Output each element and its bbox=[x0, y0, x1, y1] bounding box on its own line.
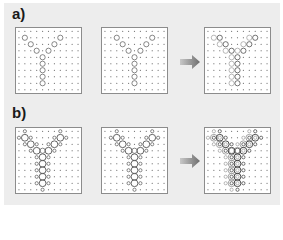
pattern-circle bbox=[224, 169, 227, 172]
pattern-circle bbox=[145, 149, 148, 152]
pattern-circle bbox=[247, 35, 252, 40]
pattern-circle bbox=[229, 81, 234, 86]
pattern-circle bbox=[230, 169, 233, 172]
pattern-circle bbox=[131, 167, 138, 174]
pattern-circle bbox=[39, 167, 46, 174]
pattern-circle bbox=[47, 162, 50, 165]
pattern-circle bbox=[47, 143, 50, 146]
pattern-circle bbox=[127, 175, 130, 178]
pattern-circle bbox=[236, 162, 239, 165]
pattern-circle bbox=[143, 141, 150, 148]
pattern-circle bbox=[229, 61, 234, 66]
pattern-circle bbox=[132, 61, 137, 66]
pattern-circle bbox=[223, 48, 228, 53]
pattern-circle bbox=[236, 182, 239, 185]
pattern-circle bbox=[59, 130, 62, 133]
pattern-circle bbox=[235, 48, 240, 53]
pattern-circle bbox=[212, 136, 215, 139]
pattern-circle bbox=[139, 169, 142, 172]
pattern-circle bbox=[137, 147, 144, 154]
pattern-circle bbox=[224, 136, 227, 139]
pattern-circle bbox=[223, 42, 228, 47]
pattern-circle bbox=[34, 48, 39, 53]
pattern-circle bbox=[242, 175, 245, 178]
pattern-circle bbox=[230, 188, 233, 191]
pattern-circle bbox=[21, 134, 28, 141]
pattern-circle bbox=[119, 141, 126, 148]
pattern-circle bbox=[206, 136, 209, 139]
pattern-circle bbox=[132, 148, 137, 153]
pattern-circle bbox=[35, 175, 38, 178]
pattern-circle bbox=[114, 35, 119, 40]
pattern-circle bbox=[127, 169, 130, 172]
right-arrow-icon bbox=[180, 154, 200, 168]
pattern-circle bbox=[53, 149, 56, 152]
pattern-circle bbox=[235, 148, 240, 153]
pattern-circle bbox=[113, 134, 120, 141]
pattern-circle bbox=[218, 136, 221, 139]
dot-grid bbox=[205, 128, 270, 193]
pattern-circle bbox=[211, 35, 216, 40]
pattern-circle bbox=[235, 55, 240, 60]
pattern-circle bbox=[139, 156, 142, 159]
pattern-circle bbox=[58, 35, 63, 40]
dot-grid bbox=[102, 128, 167, 193]
pattern-circle bbox=[65, 136, 68, 139]
row-b-panel-2 bbox=[101, 127, 168, 194]
pattern-circle bbox=[229, 148, 234, 153]
pattern-circle bbox=[35, 182, 38, 185]
row-b-label: b) bbox=[12, 104, 26, 121]
row-a-panel-1 bbox=[15, 27, 82, 94]
pattern-circle bbox=[248, 136, 251, 139]
row-b-panel-1 bbox=[15, 127, 82, 194]
pattern-circle bbox=[121, 136, 124, 139]
pattern-circle bbox=[241, 48, 246, 53]
pattern-circle bbox=[151, 143, 154, 146]
pattern-circle bbox=[242, 136, 245, 139]
pattern-circle bbox=[248, 130, 251, 133]
pattern-circle bbox=[57, 134, 64, 141]
pattern-circle bbox=[132, 74, 137, 79]
pattern-circle bbox=[230, 143, 233, 146]
pattern-circle bbox=[224, 156, 227, 159]
pattern-circle bbox=[218, 143, 221, 146]
pattern-circle bbox=[51, 141, 58, 148]
pattern-circle bbox=[115, 130, 118, 133]
pattern-circle bbox=[47, 182, 50, 185]
pattern-circle bbox=[139, 175, 142, 178]
right-arrow-icon bbox=[180, 55, 200, 69]
pattern-circle bbox=[224, 149, 227, 152]
pattern-circle bbox=[242, 143, 245, 146]
pattern-circle bbox=[235, 68, 240, 73]
pattern-circle bbox=[59, 143, 62, 146]
dot-grid bbox=[16, 28, 81, 93]
pattern-circle bbox=[127, 156, 130, 159]
pattern-circle bbox=[235, 81, 240, 86]
pattern-circle bbox=[236, 156, 239, 159]
pattern-circle bbox=[127, 162, 130, 165]
pattern-circle bbox=[218, 149, 221, 152]
row-b-panel-overlay bbox=[204, 127, 271, 194]
pattern-circle bbox=[230, 156, 233, 159]
pattern-circle bbox=[120, 42, 125, 47]
pattern-circle bbox=[23, 143, 26, 146]
pattern-circle bbox=[35, 162, 38, 165]
row-a-panel-2 bbox=[101, 27, 168, 94]
pattern-circle bbox=[131, 173, 138, 180]
pattern-circle bbox=[33, 147, 40, 154]
pattern-circle bbox=[242, 162, 245, 165]
pattern-circle bbox=[224, 175, 227, 178]
pattern-circle bbox=[29, 136, 32, 139]
pattern-circle bbox=[254, 130, 257, 133]
pattern-circle bbox=[47, 169, 50, 172]
pattern-circle bbox=[52, 42, 57, 47]
pattern-circle bbox=[132, 68, 137, 73]
pattern-circle bbox=[248, 149, 251, 152]
pattern-circle bbox=[230, 182, 233, 185]
pattern-circle bbox=[242, 156, 245, 159]
pattern-circle bbox=[248, 143, 251, 146]
pattern-circle bbox=[229, 68, 234, 73]
pattern-circle bbox=[40, 55, 45, 60]
pattern-circle bbox=[224, 182, 227, 185]
pattern-circle bbox=[254, 143, 257, 146]
